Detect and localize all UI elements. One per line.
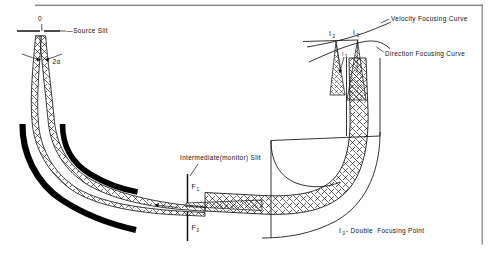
f1-subscript: 1: [197, 187, 200, 192]
intermediate-slit-leader: [190, 164, 198, 176]
magnet-inner-arc: [271, 141, 340, 187]
velocity-focusing-curve-label: Velocity Focusing Curve: [391, 15, 468, 23]
velocity-curve-leader: [381, 19, 389, 23]
focal-plane-line: [303, 40, 359, 42]
double-focusing-point-letter: I: [339, 227, 341, 234]
velocity-focusing-curve-line: [307, 22, 391, 47]
i1-subscript: 1: [345, 54, 348, 59]
source-slit-label: —Source Slit: [67, 27, 109, 34]
i1-letter: I: [342, 52, 344, 57]
direction-curve-leader: [377, 47, 384, 52]
f1-label: F 1: [192, 183, 200, 192]
i2-letter: I: [329, 30, 331, 37]
i2-subscript: 2: [333, 34, 336, 39]
ray-bundles: [330, 41, 366, 101]
esa-plate-inner: [63, 124, 138, 192]
f0-letter: F: [192, 224, 197, 231]
intermediate-slit-label: Intermediate(monitor) Slit: [180, 154, 261, 162]
f1-letter: F: [192, 183, 197, 190]
f0-subscript: 0: [197, 228, 200, 233]
source-origin-label: 0: [38, 15, 42, 22]
beam-band-lower-entrance: [40, 36, 205, 212]
ion-optics-diagram: 0 —Source Slit 2α Intermediate(monitor) …: [0, 0, 489, 255]
right-frame-bar: [482, 5, 483, 245]
i1-label: I 1: [342, 52, 348, 59]
double-focusing-point-text: - Double Focusing Point: [346, 227, 424, 235]
ray-bundle-i2: [330, 42, 345, 96]
f0-label: F 0: [192, 224, 200, 233]
top-frame-bar: [35, 5, 483, 7]
i2-label: I 2: [329, 30, 336, 39]
magnet-beam-band: [205, 58, 368, 214]
i0-letter: I: [353, 29, 355, 36]
double-focusing-point-label: I 0 - Double Focusing Point: [339, 227, 424, 236]
half-angle-label: 2α: [53, 58, 61, 65]
magnetic-sector-beam: [205, 58, 368, 214]
i0-subscript: 0: [357, 33, 360, 38]
figure-root: 0 —Source Slit 2α Intermediate(monitor) …: [0, 0, 489, 255]
source-slit-group: [17, 24, 66, 31]
direction-focusing-curve-label: Direction Focusing Curve: [385, 50, 465, 58]
